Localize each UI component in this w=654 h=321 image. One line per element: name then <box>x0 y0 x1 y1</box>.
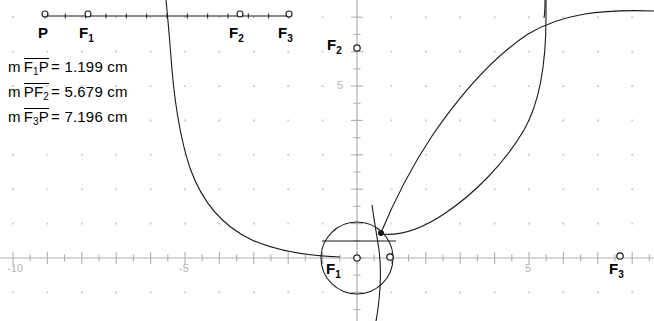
grid-dot <box>631 120 633 122</box>
measure-pf2-unit: cm <box>107 83 127 100</box>
grid-dot <box>253 120 255 122</box>
ruler-label-F3-base: F <box>278 24 287 41</box>
grid-dot <box>184 188 186 190</box>
grid-dot <box>115 154 117 156</box>
ruler-label-F3[interactable]: F3 <box>278 24 293 44</box>
grid-dot <box>563 120 565 122</box>
measure-f3p-segment: F3P <box>24 108 49 126</box>
measure-pf2-seg-b: F <box>34 83 43 100</box>
grid-dot <box>528 223 530 225</box>
grid-dot <box>322 188 324 190</box>
grid-dot <box>391 85 393 87</box>
grid-dot <box>425 292 427 294</box>
grid-dot <box>597 223 599 225</box>
ruler-label-F1-sub: 1 <box>88 33 94 44</box>
grid-dot <box>391 120 393 122</box>
grid-dot <box>563 223 565 225</box>
plane-label-F1[interactable]: F1 <box>326 260 341 280</box>
measure-f1p-unit: cm <box>107 58 127 75</box>
hyperbola-branch-right <box>544 0 545 18</box>
grid-dot <box>391 51 393 53</box>
grid-dot <box>115 223 117 225</box>
plane-points[interactable] <box>354 45 623 261</box>
ruler-point-F3[interactable] <box>286 11 292 17</box>
measure-pf2-segment: PF2 <box>24 83 49 101</box>
ruler-point-F1[interactable] <box>85 11 91 17</box>
grid-dot <box>631 188 633 190</box>
point-on-circle-x-axis[interactable] <box>387 254 393 260</box>
grid-dot <box>563 154 565 156</box>
grid-dot <box>631 154 633 156</box>
grid-dot <box>150 51 152 53</box>
measure-f3p-prefix: m <box>8 104 21 129</box>
grid-dot <box>322 292 324 294</box>
grid-dot <box>391 292 393 294</box>
ruler-label-F1[interactable]: F1 <box>79 24 94 44</box>
grid-dot <box>12 51 14 53</box>
ruler-label-F1-base: F <box>79 24 88 41</box>
measure-pf2-seg-b-sub: 2 <box>43 91 49 102</box>
measure-f1p-value: 1.199 <box>64 58 103 75</box>
ruler-label-F2-base: F <box>229 24 238 41</box>
grid-dot <box>12 223 14 225</box>
ruler-label-F2[interactable]: F2 <box>229 24 244 44</box>
ruler-point-F2[interactable] <box>237 11 243 17</box>
grid-dot <box>425 188 427 190</box>
ruler-point-P[interactable] <box>42 11 48 17</box>
measure-f3p[interactable]: mF3P= 7.196 cm <box>8 104 238 129</box>
x-tick-label-5: 5 <box>525 262 531 274</box>
x-tick-label-neg10: -10 <box>7 262 23 274</box>
grid-dot <box>425 51 427 53</box>
grid-dot <box>459 154 461 156</box>
grid-dot <box>494 85 496 87</box>
grid-dot <box>563 188 565 190</box>
grid-dot <box>287 223 289 225</box>
plane-label-F2[interactable]: F2 <box>327 36 342 56</box>
measure-f3p-unit: cm <box>107 108 127 125</box>
point-P-on-curve[interactable] <box>378 230 383 235</box>
measure-f3p-value: 7.196 <box>64 108 103 125</box>
grid-dot <box>631 223 633 225</box>
grid-dot <box>322 51 324 53</box>
grid-dot <box>459 51 461 53</box>
grid-dot <box>150 292 152 294</box>
point-F2[interactable] <box>354 45 360 51</box>
grid-dot <box>47 51 49 53</box>
grid-dot <box>253 51 255 53</box>
grid-dot <box>115 188 117 190</box>
grid-dot <box>287 188 289 190</box>
grid-dot <box>150 223 152 225</box>
grid-dot <box>391 16 393 18</box>
measure-f3p-seg-a: F <box>24 108 33 125</box>
plane-label-F2-base: F <box>327 36 336 53</box>
grid-dot <box>115 292 117 294</box>
grid-dot <box>459 120 461 122</box>
plane-label-F3[interactable]: F3 <box>609 260 624 280</box>
grid-dot <box>597 154 599 156</box>
grid-dot <box>597 16 599 18</box>
ruler-label-P[interactable]: P <box>38 24 48 44</box>
measure-f1p[interactable]: mF1P= 1.199 cm <box>8 54 238 79</box>
grid-dot <box>597 120 599 122</box>
grid-dot <box>494 188 496 190</box>
grid-dot <box>184 223 186 225</box>
grid-dot <box>47 188 49 190</box>
measure-pf2-seg-a: P <box>24 83 34 100</box>
grid-dot <box>459 223 461 225</box>
measure-pf2[interactable]: mPF2= 5.679 cm <box>8 79 238 104</box>
measure-f1p-equals: = <box>51 58 60 75</box>
grid-dot <box>459 85 461 87</box>
grid-dot <box>391 188 393 190</box>
plane-label-F1-base: F <box>326 260 335 277</box>
grid-dot <box>287 51 289 53</box>
point-F1-origin[interactable] <box>354 255 360 261</box>
grid-dot <box>184 51 186 53</box>
grid-dot <box>322 223 324 225</box>
grid-dot <box>597 292 599 294</box>
point-F3[interactable] <box>617 253 623 259</box>
grid-dot <box>81 154 83 156</box>
grid-dot <box>115 51 117 53</box>
measure-f3p-equals: = <box>51 108 60 125</box>
geometry-sketch-canvas[interactable]: mF1P= 1.199 cm mPF2= 5.679 cm mF3P= 7.19… <box>0 0 654 321</box>
grid-dot <box>253 188 255 190</box>
